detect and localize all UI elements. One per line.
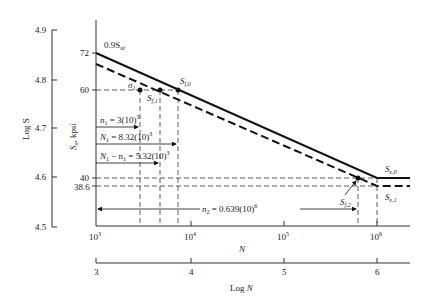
label-se1: Se,1 xyxy=(385,192,397,203)
label-N1-minus-n1: N1 − n1 = 5.32(10)3 xyxy=(99,150,169,162)
svg-text:4: 4 xyxy=(189,267,194,277)
label-sf0: Sf,0 xyxy=(180,76,191,87)
n-tick: 104 xyxy=(184,231,196,242)
so-axis-label: So, kpsi xyxy=(68,122,79,150)
damaged-sn-curve xyxy=(96,64,410,186)
s-tick: 38.6 xyxy=(74,182,90,192)
label-N1: N1 = 8.32(10)3 xyxy=(99,131,152,143)
log-s-tick: 4.6 xyxy=(35,172,47,182)
log-s-tick: 4.7 xyxy=(35,123,47,133)
n-axis-label: N xyxy=(238,244,246,254)
log-s-tick: 4.8 xyxy=(35,75,47,85)
s-tick: 72 xyxy=(80,48,89,58)
s-tick: 60 xyxy=(80,85,90,95)
svg-text:5: 5 xyxy=(282,267,287,277)
label-n2: n2 = 0.639(10)6 xyxy=(202,203,257,215)
point-sigma1 xyxy=(138,88,143,93)
n-tick: 103 xyxy=(89,231,101,242)
fatigue-chart: 4.9 4.8 4.7 4.6 4.5 Log S So, kpsi 72 60… xyxy=(0,0,430,307)
point-sf0 xyxy=(176,88,181,93)
arrow-sf2 xyxy=(345,181,356,195)
svg-text:6: 6 xyxy=(375,267,380,277)
log-s-axis: 4.9 4.8 4.7 4.6 4.5 Log S xyxy=(21,25,57,232)
n-tick: 105 xyxy=(277,231,289,242)
svg-text:3: 3 xyxy=(94,267,99,277)
label-sf1: Sf,1 xyxy=(147,93,158,104)
log-n-axis: 3 4 5 6 Log N xyxy=(94,258,410,293)
log-s-label: Log S xyxy=(21,118,31,140)
label-sf2: Sf,2 xyxy=(340,197,351,208)
label-se0: Se,0 xyxy=(385,164,397,175)
log-s-tick: 4.9 xyxy=(35,25,47,35)
n-tick: 106 xyxy=(370,231,382,242)
label-n1: n1 = 3(10)3 xyxy=(100,114,140,126)
log-s-tick: 4.5 xyxy=(35,222,47,232)
point-sf2 xyxy=(356,176,361,181)
label-ut: 0.9Sut xyxy=(104,40,125,51)
point-sf1 xyxy=(158,88,163,93)
log-n-label: Log N xyxy=(230,283,254,293)
